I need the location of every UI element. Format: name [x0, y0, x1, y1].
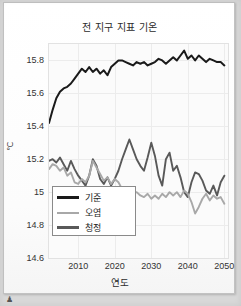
legend-swatch-polluted — [57, 212, 79, 214]
sheet-surface: 전 지구 지표 기온 15.815.615.415.21514.814.6 ℃ … — [4, 3, 234, 293]
legend-swatch-baseline — [57, 196, 79, 199]
y-tick-15.8: 15.8 — [4, 55, 44, 65]
x-axis-label: 연도 — [4, 275, 236, 289]
chart-figure: 전 지구 지표 기온 15.815.615.415.21514.814.6 ℃ … — [4, 3, 236, 295]
legend-label-baseline: 기준 — [85, 191, 101, 204]
y-tick-15.4: 15.4 — [4, 121, 44, 131]
series-line-기준 — [49, 51, 224, 123]
y-tick-15.2: 15.2 — [4, 154, 44, 164]
legend-item-0[interactable]: 기준 — [57, 190, 131, 205]
x-tick-2050: 2050 — [214, 261, 234, 271]
y-tick-15: 15 — [4, 187, 44, 197]
scan-artifact-icon: ♟ — [6, 296, 13, 304]
x-axis-tick-labels: 20102020203020402050 — [48, 261, 229, 275]
legend-item-2[interactable]: 청정 — [57, 220, 131, 235]
gridline-horizontal-6 — [49, 258, 228, 259]
y-tick-14.6: 14.6 — [4, 253, 44, 263]
legend-label-polluted: 오염 — [85, 206, 101, 219]
x-tick-2010: 2010 — [68, 261, 88, 271]
x-tick-2020: 2020 — [105, 261, 125, 271]
y-axis-tick-labels: 15.815.615.415.21514.814.6 — [4, 43, 44, 259]
x-tick-2030: 2030 — [141, 261, 161, 271]
legend-swatch-clean — [57, 226, 79, 229]
legend-item-1[interactable]: 오염 — [57, 205, 131, 220]
chart-title: 전 지구 지표 기온 — [4, 19, 236, 34]
scanned-sheet: 전 지구 지표 기온 15.815.615.415.21514.814.6 ℃ … — [3, 2, 235, 294]
y-tick-15.6: 15.6 — [4, 88, 44, 98]
chart-legend[interactable]: 기준 오염 청정 — [52, 186, 136, 236]
y-tick-14.8: 14.8 — [4, 220, 44, 230]
page-background: 전 지구 지표 기온 15.815.615.415.21514.814.6 ℃ … — [0, 0, 241, 306]
x-tick-2040: 2040 — [178, 261, 198, 271]
y-axis-label: ℃ — [6, 142, 15, 151]
legend-label-clean: 청정 — [85, 221, 101, 234]
